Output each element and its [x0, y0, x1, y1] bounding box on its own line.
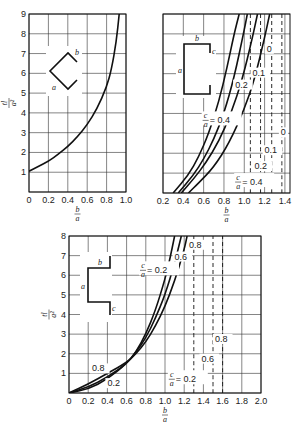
svg-text:b: b	[225, 206, 229, 215]
svg-text:a²: a²	[49, 311, 58, 318]
svg-text:tl: tl	[0, 100, 9, 105]
svg-text:3: 3	[21, 128, 26, 138]
svg-text:c: c	[204, 111, 208, 120]
svg-text:0.2: 0.2	[82, 396, 95, 406]
svg-text:1.0: 1.0	[159, 396, 172, 406]
svg-text:= 0.2: = 0.2	[176, 374, 196, 384]
svg-text:a: a	[170, 379, 174, 388]
svg-text:7: 7	[21, 49, 26, 59]
svg-text:2: 2	[61, 349, 66, 359]
svg-text:b: b	[98, 258, 102, 267]
svg-text:0.8: 0.8	[100, 195, 113, 205]
svg-text:a: a	[225, 215, 229, 224]
svg-text:c: c	[212, 47, 216, 56]
svg-text:a: a	[76, 214, 80, 223]
y-tick-labels: 123456789	[21, 9, 26, 177]
svg-text:0.6: 0.6	[201, 354, 214, 364]
svg-text:0.6: 0.6	[197, 196, 210, 206]
y-axis-label: tla²	[40, 310, 58, 320]
chart-top-left: 00.20.40.60.81.0123456789batla²ba	[0, 9, 132, 223]
svg-text:0.8: 0.8	[215, 334, 228, 344]
svg-text:c: c	[236, 173, 240, 182]
svg-text:a: a	[236, 182, 240, 191]
svg-text:6: 6	[21, 68, 26, 78]
svg-text:0: 0	[281, 127, 286, 137]
angle-section-sketch: ba	[46, 46, 82, 96]
svg-text:0.8: 0.8	[140, 396, 153, 406]
x-tick-labels: 00.20.40.60.81.01.21.41.61.82.0	[66, 396, 267, 406]
y-axis-label: tla²	[0, 98, 18, 108]
svg-text:5: 5	[61, 290, 66, 300]
svg-text:8: 8	[61, 231, 66, 241]
svg-text:a: a	[52, 83, 56, 92]
svg-text:0: 0	[66, 396, 71, 406]
svg-text:a²: a²	[9, 99, 18, 106]
svg-text:a: a	[163, 415, 167, 424]
x-axis-label: ba	[224, 206, 230, 224]
svg-text:a: a	[178, 66, 182, 75]
svg-text:a: a	[141, 270, 145, 279]
svg-text:b: b	[163, 406, 167, 415]
svg-text:0.2: 0.2	[42, 195, 55, 205]
svg-text:3: 3	[61, 329, 66, 339]
chart-top-right: 0.20.40.60.81.01.21.4ba00.10.2ca = 0.400…	[157, 14, 291, 224]
svg-text:1.2: 1.2	[258, 196, 271, 206]
svg-text:0.2: 0.2	[107, 378, 120, 388]
z-section-sketch: bac	[80, 252, 116, 322]
svg-text:1.4: 1.4	[279, 196, 292, 206]
svg-text:5: 5	[21, 88, 26, 98]
svg-text:0.2: 0.2	[254, 161, 267, 171]
svg-text:1.6: 1.6	[216, 396, 229, 406]
svg-text:0.1: 0.1	[252, 68, 265, 78]
svg-text:0.6: 0.6	[175, 252, 188, 262]
svg-text:0.6: 0.6	[81, 195, 94, 205]
svg-text:1: 1	[21, 167, 26, 177]
chart-bottom: 00.20.40.60.81.01.21.41.61.82.012345678b…	[40, 231, 267, 424]
svg-text:4: 4	[21, 108, 26, 118]
x-axis-label: ba	[75, 205, 81, 223]
svg-text:0.1: 0.1	[265, 145, 278, 155]
svg-text:0.8: 0.8	[92, 363, 105, 373]
svg-text:2: 2	[21, 147, 26, 157]
x-tick-labels: 00.20.40.60.81.0	[26, 195, 132, 205]
svg-text:1.2: 1.2	[178, 396, 191, 406]
svg-text:0.8: 0.8	[218, 196, 231, 206]
grid	[29, 14, 126, 192]
svg-text:4: 4	[61, 310, 66, 320]
svg-text:0.8: 0.8	[189, 240, 202, 250]
svg-text:= 0.2: = 0.2	[147, 265, 167, 275]
svg-text:b: b	[195, 34, 199, 43]
svg-text:0: 0	[26, 195, 31, 205]
svg-text:6: 6	[61, 270, 66, 280]
charts-canvas: 00.20.40.60.81.0123456789batla²ba 0.20.4…	[0, 0, 298, 427]
svg-text:0.2: 0.2	[235, 80, 248, 90]
svg-text:c: c	[112, 304, 116, 313]
svg-text:b: b	[76, 205, 80, 214]
svg-text:= 0.4: = 0.4	[242, 177, 262, 187]
svg-text:a: a	[204, 120, 208, 129]
channel-section-sketch: bca	[176, 34, 216, 98]
x-tick-labels: 0.20.40.60.81.01.21.4	[157, 196, 291, 206]
svg-text:1.0: 1.0	[120, 195, 133, 205]
svg-text:1.0: 1.0	[238, 196, 251, 206]
svg-text:0.4: 0.4	[177, 196, 190, 206]
svg-text:c: c	[141, 261, 145, 270]
y-tick-labels: 12345678	[61, 231, 66, 378]
svg-text:0.6: 0.6	[120, 396, 133, 406]
svg-text:8: 8	[21, 29, 26, 39]
svg-text:1.8: 1.8	[236, 396, 249, 406]
svg-text:b: b	[75, 48, 79, 57]
svg-text:c: c	[170, 370, 174, 379]
svg-text:1.4: 1.4	[197, 396, 210, 406]
svg-text:1: 1	[61, 368, 66, 378]
svg-text:7: 7	[61, 251, 66, 261]
svg-text:0.4: 0.4	[62, 195, 75, 205]
svg-text:9: 9	[21, 9, 26, 19]
svg-text:= 0.4: = 0.4	[210, 115, 230, 125]
svg-text:0: 0	[267, 44, 272, 54]
x-axis-label: ba	[162, 406, 168, 424]
plot-frame	[29, 14, 126, 192]
svg-text:0.4: 0.4	[101, 396, 114, 406]
svg-text:tl: tl	[40, 312, 49, 317]
svg-text:a: a	[81, 282, 85, 291]
